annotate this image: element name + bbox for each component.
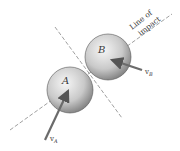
velocity-b-subscript: B [148,71,153,77]
ball-b-label: B [97,44,105,55]
line-of-impact-label: Line of impact [128,7,163,40]
ball-b [85,34,131,80]
ball-a [47,67,93,113]
velocity-b-label: vB [144,68,153,77]
velocity-a-label: vA [49,135,58,144]
velocity-a-subscript: A [53,138,58,144]
collision-diagram: A B vA vB Line of impact [0,0,180,151]
ball-a-label: A [61,75,69,86]
